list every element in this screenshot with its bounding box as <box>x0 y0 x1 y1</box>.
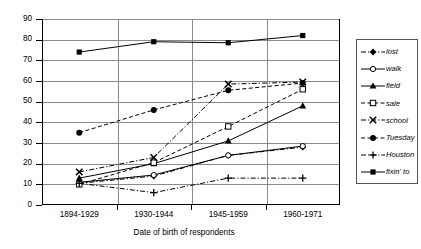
filled-diamond-icon <box>360 45 386 59</box>
y-tick-label: 40 <box>6 117 32 126</box>
cross-x-icon <box>360 113 386 127</box>
y-tick-mark <box>36 205 42 206</box>
x-axis-title: Date of birth of respondents <box>18 228 350 237</box>
legend-item-label: school <box>386 116 408 125</box>
legend-item-tuesday[interactable]: Tuesday <box>357 129 417 146</box>
y-tick-label: 90 <box>6 14 32 23</box>
legend-item-school[interactable]: school <box>357 112 417 129</box>
y-tick-label: 0 <box>6 200 32 209</box>
series-field <box>76 102 306 181</box>
legend-item-houston[interactable]: Houston <box>357 146 417 163</box>
legend-item-fixin--to[interactable]: fixin' to <box>357 163 417 180</box>
x-tick-label: 1960-1971 <box>266 210 340 219</box>
y-tick-label: 30 <box>6 138 32 147</box>
y-tick-label: 70 <box>6 55 32 64</box>
legend-item-label: Tuesday <box>386 133 415 142</box>
series-fixin--to <box>77 33 306 55</box>
legend: lostwalkfieldsaleschoolTuesdayHoustonfix… <box>356 39 418 184</box>
legend-item-lost[interactable]: lost <box>357 43 417 60</box>
series-walk <box>77 144 306 185</box>
filled-square-icon <box>360 165 386 179</box>
y-tick-label: 10 <box>6 179 32 188</box>
x-tick-label: 1945-1959 <box>191 210 265 219</box>
filled-triangle-icon <box>360 79 386 93</box>
legend-item-label: fixin' to <box>386 167 409 176</box>
x-tick-label: 1894-1929 <box>42 210 116 219</box>
y-tick-label: 20 <box>6 158 32 167</box>
open-circle-icon <box>360 62 386 76</box>
series-school <box>76 79 306 175</box>
open-square-icon <box>360 96 386 110</box>
legend-item-field[interactable]: field <box>357 77 417 94</box>
legend-item-label: field <box>386 81 400 90</box>
filled-circle-icon <box>360 131 386 145</box>
chart-container: Percentage of respondents using innovati… <box>0 0 421 249</box>
x-tick-label: 1930-1944 <box>117 210 191 219</box>
legend-item-sale[interactable]: sale <box>357 95 417 112</box>
series-plot <box>42 19 340 205</box>
plus-icon <box>360 148 386 162</box>
legend-item-label: walk <box>386 64 401 73</box>
y-tick-label: 80 <box>6 34 32 43</box>
legend-item-label: lost <box>386 47 398 56</box>
series-houston <box>76 175 307 197</box>
y-tick-label: 50 <box>6 96 32 105</box>
y-tick-label: 60 <box>6 76 32 85</box>
legend-item-label: sale <box>386 99 400 108</box>
series-tuesday <box>76 80 306 136</box>
legend-item-walk[interactable]: walk <box>357 60 417 77</box>
legend-item-label: Houston <box>386 150 414 159</box>
